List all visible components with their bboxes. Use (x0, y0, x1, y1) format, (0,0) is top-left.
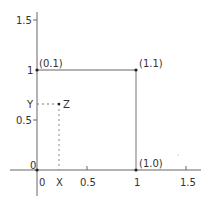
z-point-label: Z (63, 99, 70, 110)
x-label-0.5: 0.5 (80, 177, 96, 188)
x-projection-label: X (56, 177, 63, 188)
vertex-label-1-0: (1.0) (139, 158, 163, 169)
y-label-1.5: 1.5 (16, 15, 32, 26)
vertex-1-0 (134, 168, 137, 171)
y-label-1: 1 (27, 65, 33, 76)
stray-dot (177, 154, 179, 156)
point-z (58, 103, 61, 106)
diagram-canvas: 1.5 1 0.5 0 0.5 1 1.5 0 (0.1) (1.1) (1.0… (0, 0, 211, 206)
x-label-0: 0 (39, 177, 45, 188)
y-projection-label: Y (26, 99, 34, 110)
vertex-label-0-1: (0.1) (39, 58, 63, 69)
x-label-1.5: 1.5 (180, 177, 196, 188)
vertex-label-1-1: (1.1) (139, 58, 163, 69)
coordinate-diagram: 1.5 1 0.5 0 0.5 1 1.5 0 (0.1) (1.1) (1.0… (0, 0, 211, 206)
origin-label: 0 (30, 160, 36, 171)
vertex-1-1 (134, 68, 137, 71)
y-label-0.5: 0.5 (16, 115, 32, 126)
x-label-1: 1 (134, 177, 140, 188)
